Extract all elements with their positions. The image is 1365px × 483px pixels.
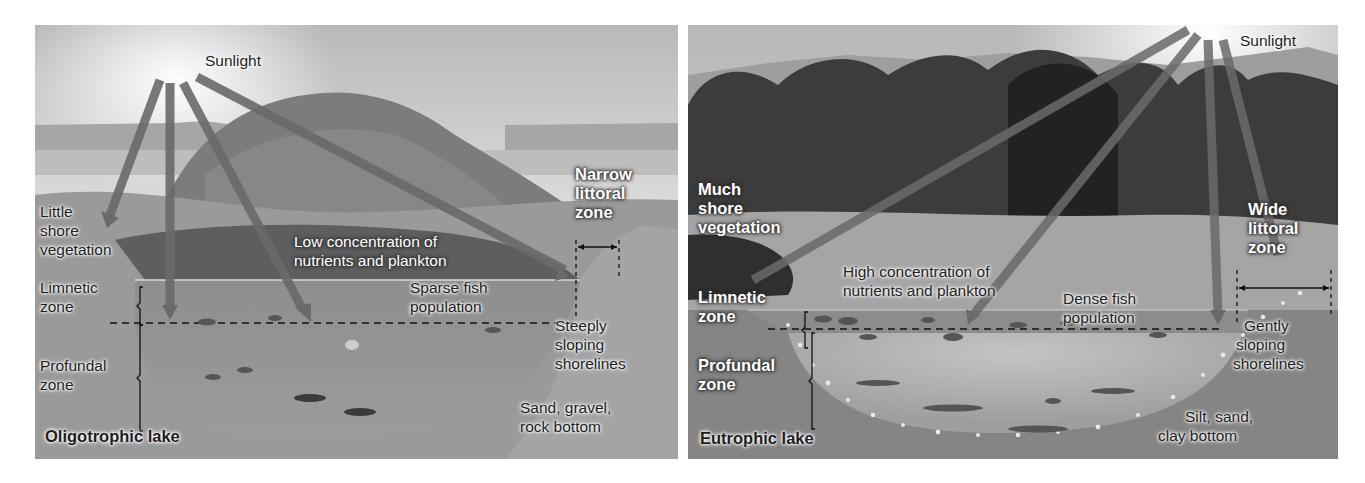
profundal-zone-label: Profundal zone: [698, 356, 775, 394]
profundal-zone-label: Profundal zone: [40, 356, 106, 394]
sunlight-label: Sunlight: [1240, 31, 1296, 50]
nutrient-concentration-label: Low concentration of nutrients and plank…: [294, 232, 447, 270]
oligotrophic-lake-panel: Sunlight Little shore vegetation Narrow …: [35, 25, 678, 459]
eutrophic-lake-panel: Sunlight Much shore vegetation Wide litt…: [688, 25, 1338, 459]
eutrophic-lake-illustration: [688, 25, 1338, 459]
sunlight-label: Sunlight: [205, 51, 261, 70]
nutrient-concentration-label: High concentration of nutrients and plan…: [843, 262, 996, 300]
bottom-type-label: Sand, gravel, rock bottom: [520, 398, 611, 436]
shorelines-label: Gently sloping shorelines: [1233, 316, 1304, 373]
shorelines-label: Steeply sloping shorelines: [555, 316, 626, 373]
limnetic-zone-label: Limnetic zone: [698, 288, 766, 326]
limnetic-zone-label: Limnetic zone: [40, 278, 98, 316]
bottom-type-label: Silt, sand, clay bottom: [1158, 407, 1253, 445]
shore-vegetation-label: Much shore vegetation: [698, 180, 781, 237]
panel-title: Eutrophic lake: [700, 429, 814, 448]
littoral-zone-label: Narrow littoral zone: [575, 165, 632, 222]
panel-title: Oligotrophic lake: [45, 427, 180, 446]
fish-population-label: Sparse fish population: [410, 278, 488, 316]
shore-vegetation-label: Little shore vegetation: [40, 202, 112, 259]
littoral-zone-label: Wide littoral zone: [1248, 200, 1298, 257]
fish-population-label: Dense fish population: [1063, 289, 1136, 327]
